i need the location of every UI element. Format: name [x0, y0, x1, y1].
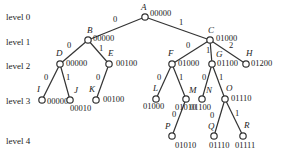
- node-code: 01000: [178, 58, 199, 68]
- node-name: A: [140, 2, 147, 12]
- node-circle-icon: [93, 97, 99, 103]
- edge-label: 0: [186, 40, 190, 50]
- tree-nodes: A00000B00000C01000D00000E00100F01000G011…: [36, 2, 272, 150]
- node-G: G01100: [209, 49, 238, 68]
- node-circle-icon: [169, 61, 175, 67]
- node-Q: Q01110: [208, 121, 230, 150]
- level-labels: level 0level 1level 2level 3level 4: [6, 12, 31, 146]
- node-code: 01000: [143, 101, 164, 111]
- node-J: J00010: [67, 85, 91, 113]
- node-name: D: [55, 48, 63, 58]
- level-label: level 2: [6, 61, 30, 71]
- node-circle-icon: [240, 133, 246, 139]
- level-label: level 1: [6, 37, 30, 47]
- node-name: M: [188, 85, 197, 95]
- node-code: 00000: [47, 96, 68, 106]
- node-code: 00010: [70, 103, 91, 113]
- level-label: level 0: [6, 12, 31, 22]
- node-name: L: [152, 83, 158, 93]
- edge-label: 0: [157, 72, 161, 82]
- edge-label: 1: [66, 72, 70, 82]
- edge-label: 0: [67, 40, 71, 50]
- node-code: 01200: [251, 58, 272, 68]
- node-C: C01000: [207, 25, 237, 43]
- node-name: F: [167, 48, 174, 58]
- node-name: K: [88, 84, 96, 94]
- node-E: E00100: [106, 48, 137, 68]
- edge-label: 1: [179, 72, 183, 82]
- node-B: B00000: [85, 25, 114, 43]
- node-circle-icon: [106, 61, 112, 67]
- node-code: 01100: [190, 102, 211, 112]
- node-circle-icon: [243, 61, 249, 67]
- node-name: N: [205, 85, 213, 95]
- node-name: E: [107, 48, 114, 58]
- node-name: C: [208, 25, 215, 35]
- node-code: 00100: [116, 58, 137, 68]
- node-circle-icon: [222, 96, 228, 102]
- node-code: 00000: [150, 8, 171, 18]
- edge-label: 1: [179, 17, 183, 27]
- edge-D-J: [60, 64, 70, 100]
- node-code: 01010: [175, 140, 196, 150]
- node-code: 01000: [216, 33, 237, 43]
- node-code: 01111: [235, 140, 255, 150]
- node-P: P01010: [164, 121, 196, 150]
- edge-label: 0: [44, 72, 48, 82]
- node-circle-icon: [39, 97, 45, 103]
- edge-label: 1: [99, 43, 103, 53]
- node-H: H01200: [243, 48, 272, 68]
- node-name: J: [74, 85, 79, 95]
- node-A: A00000: [140, 2, 171, 20]
- node-code: 00100: [103, 94, 124, 104]
- node-code: 00000: [66, 58, 87, 68]
- node-circle-icon: [169, 133, 175, 139]
- node-code: 01100: [217, 58, 238, 68]
- edge-label: 0: [96, 72, 100, 82]
- edge-label: 1: [219, 72, 223, 82]
- node-D: D00000: [55, 48, 87, 68]
- node-name: P: [164, 121, 171, 131]
- edge-A-C: [145, 17, 210, 40]
- node-circle-icon: [211, 133, 217, 139]
- edge-label: 0: [113, 14, 117, 24]
- node-circle-icon: [85, 37, 91, 43]
- node-circle-icon: [209, 61, 215, 67]
- level-label: level 4: [6, 136, 31, 146]
- trie-diagram: level 0level 1level 2level 3level 4 0101…: [0, 0, 282, 157]
- node-code: 01110: [209, 140, 230, 150]
- node-circle-icon: [142, 14, 148, 20]
- node-name: O: [226, 83, 233, 93]
- node-code: 00000: [93, 33, 114, 43]
- node-name: I: [36, 84, 41, 94]
- edge-O-Q: [214, 99, 225, 136]
- node-name: H: [245, 48, 253, 58]
- edge-D-I: [42, 64, 60, 100]
- node-name: R: [243, 120, 250, 130]
- node-name: Q: [208, 121, 215, 131]
- node-K: K00100: [88, 84, 124, 104]
- edge-label: 1: [235, 108, 239, 118]
- node-F: F01000: [167, 48, 199, 68]
- node-O: O01110: [222, 83, 252, 103]
- node-circle-icon: [207, 37, 213, 43]
- level-label: level 3: [6, 96, 31, 106]
- node-code: 01110: [231, 93, 252, 103]
- node-circle-icon: [57, 61, 63, 67]
- node-I: I00000: [36, 84, 68, 106]
- edge-label: 0: [202, 72, 206, 82]
- edge-label: 1: [206, 45, 210, 55]
